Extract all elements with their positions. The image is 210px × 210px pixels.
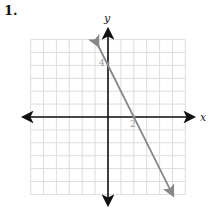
coordinate-graph: y x 4 2 <box>0 0 210 210</box>
y-intercept-label: 4 <box>99 58 105 68</box>
y-intercept-point <box>106 61 109 64</box>
x-intercept-label: 2 <box>130 119 136 129</box>
x-axis-label: x <box>200 111 207 124</box>
y-axis-label: y <box>103 12 111 25</box>
